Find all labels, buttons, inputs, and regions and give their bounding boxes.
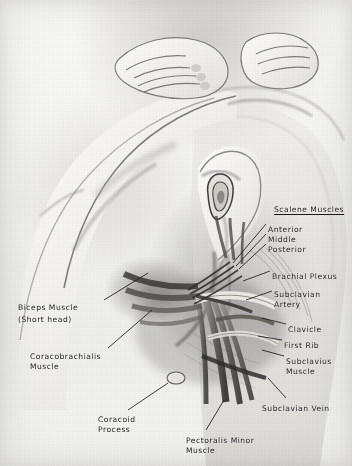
label-middle: Middle: [268, 235, 296, 245]
label-brachial-plexus: Brachial Plexus: [272, 272, 337, 282]
label-anterior: Anterior: [268, 225, 303, 235]
coracoid-process-knob: [167, 372, 185, 384]
label-subclavius-muscle: Subclavius Muscle: [286, 357, 332, 376]
label-posterior: Posterior: [268, 245, 306, 255]
label-subclavian-vein: Subclavian Vein: [262, 404, 330, 414]
label-coracobrachialis: Coracobrachialis Muscle: [30, 352, 101, 371]
anatomy-figure: Scalene MusclesAnteriorMiddlePosteriorBr…: [0, 0, 352, 466]
label-biceps-muscle: Biceps Muscle: [18, 303, 78, 313]
label-clavicle: Clavicle: [288, 325, 322, 335]
label-first-rib: First Rib: [284, 341, 319, 351]
label-coracoid-process: Coracoid Process: [98, 415, 135, 434]
leader-coracoid: [128, 383, 168, 410]
label-pectoralis-minor: Pectoralis Minor Muscle: [186, 436, 254, 455]
label-subclavian-artery: Subclavian Artery: [274, 290, 320, 309]
label-biceps-short-head: (Short head): [18, 315, 72, 325]
label-scalene-muscles: Scalene Muscles: [274, 205, 344, 215]
